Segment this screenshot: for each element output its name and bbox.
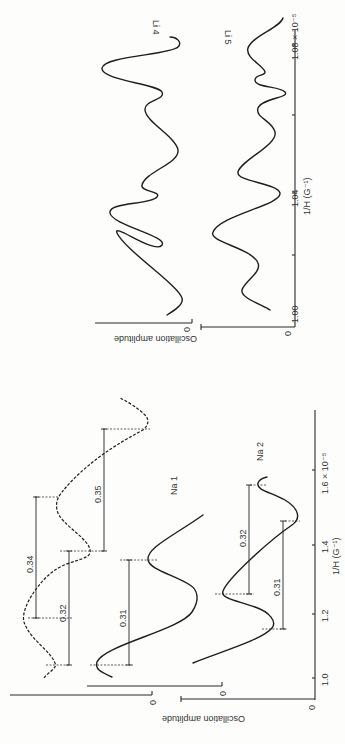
li5-label: Li 5 xyxy=(223,30,233,45)
period-label-031-na2: 0.31 xyxy=(272,578,282,596)
period-label-031-na1: 0.31 xyxy=(118,609,128,627)
period-label-032-na2: 0.32 xyxy=(238,529,248,547)
na1-curve xyxy=(96,515,203,677)
dashed-zero-label: 0 xyxy=(148,700,158,705)
figure-canvas: Li 4 Li 5 1.00 1.04 1.08 × 10⁻⁵ 1/H (G⁻¹… xyxy=(0,0,345,744)
na1-label: Na 1 xyxy=(169,476,179,495)
top-tick-label-104: 1.04 xyxy=(290,189,300,207)
li5-zero-label: 0 xyxy=(283,331,293,336)
period-label-035-dashed: 0.35 xyxy=(93,485,103,503)
top-chart-li: Li 4 Li 5 1.00 1.04 1.08 × 10⁻⁵ 1/H (G⁻¹… xyxy=(95,13,312,344)
top-y-axis-label: Oscillation amplitude xyxy=(114,334,197,344)
bottom-tick-label-10: 1.0 xyxy=(320,673,330,686)
figure-page: Li 4 Li 5 1.00 1.04 1.08 × 10⁻⁵ 1/H (G⁻¹… xyxy=(0,0,345,744)
bottom-tick-label-16: 1.6 × 10⁻⁵ xyxy=(320,452,330,494)
li4-curve xyxy=(102,37,182,315)
na2-curve xyxy=(193,477,298,663)
top-tick-label-108: 1.08 × 10⁻⁵ xyxy=(290,13,300,60)
period-bar-caps xyxy=(33,429,286,665)
li4-label: Li 4 xyxy=(151,20,161,35)
period-label-032-dashed: 0.32 xyxy=(58,604,68,622)
bottom-chart-na: 0.32 0.34 0.35 0.31 0.31 0.32 Na 1 Na 2 … xyxy=(10,398,341,724)
period-label-034-dashed: 0.34 xyxy=(25,555,35,573)
bottom-x-axis-label: 1/H (G⁻¹) xyxy=(331,537,341,575)
li5-curve xyxy=(213,18,286,310)
bottom-tick-label-14: 1.4 xyxy=(320,540,330,553)
bottom-tick-label-12: 1.2 xyxy=(320,609,330,622)
top-tick-label-100: 1.00 xyxy=(290,305,300,323)
top-x-axis-label: 1/H (G⁻¹) xyxy=(302,177,312,215)
bottom-y-axis-label: Oscillation amplitude xyxy=(162,714,245,724)
na2-zero-label: 0 xyxy=(307,705,317,710)
li4-zero-label: 0 xyxy=(182,327,192,332)
na2-label: Na 2 xyxy=(255,442,265,461)
na1-zero-label: 0 xyxy=(218,691,228,696)
